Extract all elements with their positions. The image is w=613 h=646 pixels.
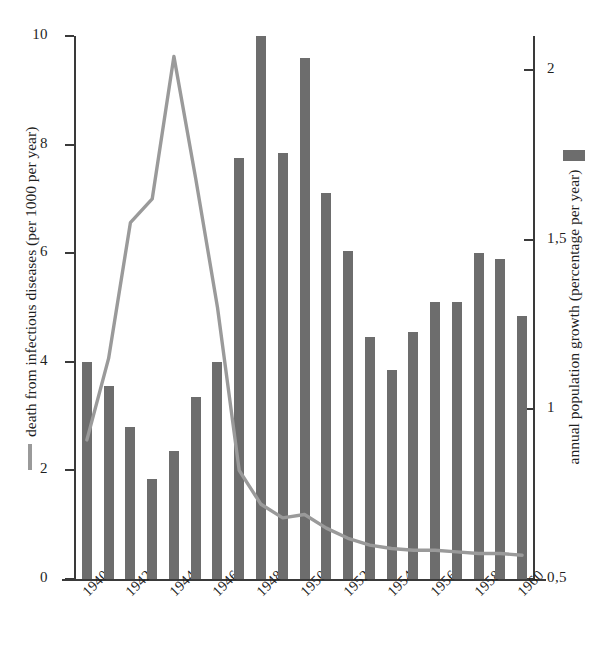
y-axis-right-title-text: annual population growth (percentage per… xyxy=(565,170,582,465)
y-axis-left-tick-label: 0 xyxy=(40,569,48,586)
population-growth-polyline xyxy=(87,56,522,555)
y-axis-left-tick xyxy=(65,35,74,37)
line-series xyxy=(76,36,533,579)
y-axis-left-tick-label: 6 xyxy=(40,243,48,260)
y-axis-left-tick-label: 4 xyxy=(40,352,48,369)
y-axis-left-tick xyxy=(65,469,74,471)
y-axis-right-title: annual population growth (percentage per… xyxy=(564,142,586,472)
chart-container: death from infectious diseases (per 1000… xyxy=(0,0,613,646)
plot-area xyxy=(76,36,533,579)
y-axis-left-title: death from infectious diseases (per 1000… xyxy=(22,140,40,470)
y-axis-left-tick xyxy=(65,361,74,363)
y-axis-right-tick-label: 2 xyxy=(547,60,555,77)
line-swatch-icon xyxy=(28,444,32,470)
y-axis-left-tick xyxy=(65,144,74,146)
y-axis-right-line xyxy=(533,36,535,581)
y-axis-left-tick-label: 2 xyxy=(40,460,48,477)
y-axis-left-title-text: death from infectious diseases (per 1000… xyxy=(22,127,39,437)
y-axis-left-tick xyxy=(65,252,74,254)
y-axis-right-tick-label: 0,5 xyxy=(547,569,567,586)
y-axis-right-tick-label: 1 xyxy=(547,399,555,416)
y-axis-left-tick xyxy=(65,578,74,580)
y-axis-left-tick-label: 8 xyxy=(40,135,48,152)
bar-swatch-icon xyxy=(563,150,585,161)
y-axis-left-tick-label: 10 xyxy=(32,26,48,43)
y-axis-right-tick-label: 1,5 xyxy=(547,230,567,247)
